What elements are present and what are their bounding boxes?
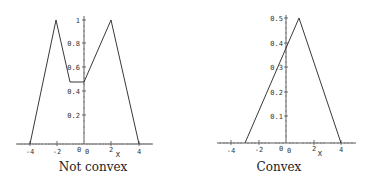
y-tick-label: 0.1 bbox=[270, 113, 283, 121]
y-tick-label: 0.4 bbox=[67, 88, 80, 96]
y-tick-label: 0.8 bbox=[67, 40, 80, 48]
x-axis-label: x bbox=[116, 150, 121, 159]
y-tick-label: 0.4 bbox=[270, 40, 283, 48]
x-tick-label: 0 bbox=[85, 148, 89, 156]
caption-convex: Convex bbox=[186, 160, 372, 174]
x-tick-label: -4 bbox=[227, 147, 235, 155]
x-axis-major-ticks bbox=[30, 141, 139, 146]
x-axis-label: x bbox=[318, 149, 323, 158]
x-tick-label: 0 bbox=[287, 147, 291, 155]
y-tick-label: 0.2 bbox=[270, 89, 283, 97]
x-tick-label: 4 bbox=[339, 146, 343, 154]
x-tick-label: -2 bbox=[53, 148, 61, 156]
x-tick-label: -2 bbox=[255, 146, 263, 154]
x-tick-label: 0 bbox=[279, 145, 283, 153]
chart-not-convex: 1 0.8 0.6 0.4 0.2 -4 -2 0 0 2 4 x Not co… bbox=[0, 0, 186, 187]
plot-convex: 0.5 0.4 0.3 0.2 0.1 -4 -2 0 0 2 4 x bbox=[186, 0, 372, 160]
data-line-convex bbox=[245, 18, 341, 143]
x-tick-label: 0 bbox=[77, 146, 81, 154]
x-tick-label: 2 bbox=[109, 146, 113, 154]
caption-not-convex: Not convex bbox=[0, 160, 186, 174]
x-tick-label: 2 bbox=[312, 145, 316, 153]
y-tick-label: 0.5 bbox=[270, 15, 283, 23]
plot-not-convex: 1 0.8 0.6 0.4 0.2 -4 -2 0 0 2 4 x bbox=[0, 0, 186, 160]
data-line-not-convex bbox=[30, 20, 139, 144]
y-tick-label: 1 bbox=[76, 17, 80, 25]
chart-convex: 0.5 0.4 0.3 0.2 0.1 -4 -2 0 0 2 4 x Conv… bbox=[186, 0, 372, 187]
x-tick-label: -4 bbox=[26, 148, 34, 156]
x-tick-label: 4 bbox=[137, 148, 141, 156]
y-tick-label: 0.2 bbox=[67, 112, 80, 120]
y-tick-label: 0.6 bbox=[67, 64, 80, 72]
